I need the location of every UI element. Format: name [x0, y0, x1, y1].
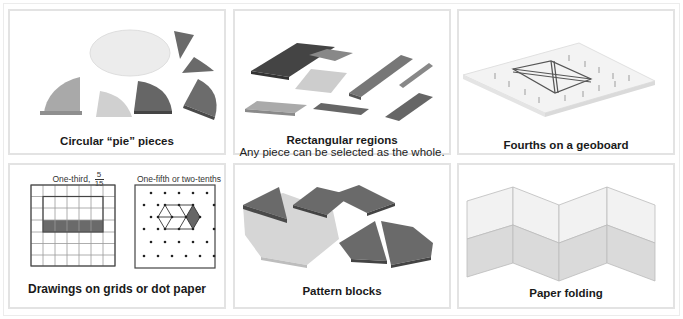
panel-paper-folding: Paper folding — [457, 163, 675, 309]
dot-paper-drawing — [135, 185, 215, 268]
caption-pie-pieces: Circular “pie” pieces — [10, 135, 224, 147]
panel-pie-pieces: Circular “pie” pieces — [8, 9, 226, 155]
caption-rectangular-regions: Rectangular regions — [235, 134, 449, 146]
caption-pattern-blocks: Pattern blocks — [235, 285, 449, 297]
subcaption-rectangular-regions: Any piece can be selected as the whole. — [235, 146, 449, 158]
caption-grids-dot-paper: Drawings on grids or dot paper — [10, 282, 224, 296]
panel-rectangular-regions: Rectangular regions Any piece can be sel… — [233, 9, 451, 155]
rectangular-regions-illustration — [235, 11, 449, 153]
paper-folding-illustration — [459, 165, 673, 307]
panel-geoboard: Fourths on a geoboard — [457, 9, 675, 155]
panel-grids-dot-paper: One-third, 515 One-fifth or two-tenths — [8, 163, 226, 309]
pie-pieces-illustration — [10, 11, 224, 153]
grid-drawing — [31, 185, 115, 266]
caption-geoboard: Fourths on a geoboard — [459, 139, 673, 151]
caption-paper-folding: Paper folding — [459, 287, 673, 299]
geoboard-illustration — [459, 11, 673, 153]
panel-pattern-blocks: Pattern blocks — [233, 163, 451, 309]
